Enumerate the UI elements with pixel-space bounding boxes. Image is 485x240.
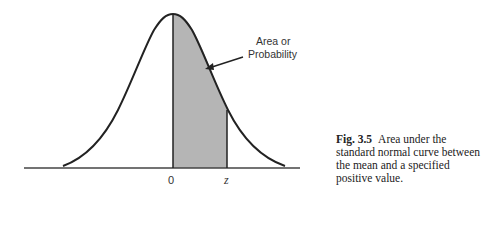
- figure-caption: Fig. 3.5Area under the standard normal c…: [336, 133, 485, 185]
- figure-number: Fig. 3.5: [336, 133, 372, 145]
- annotation-line2: Probability: [248, 48, 298, 60]
- x-label-mean: 0: [168, 174, 174, 186]
- annotation-arrow: [212, 57, 243, 67]
- annotation-line1: Area or: [256, 35, 291, 47]
- x-label-z: z: [223, 173, 229, 187]
